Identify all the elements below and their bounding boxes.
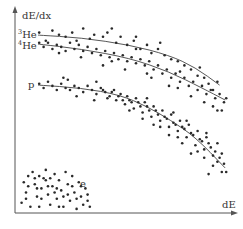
y-axis-arrow-icon (13, 6, 18, 13)
data-point-4he (212, 105, 215, 108)
data-point-p (69, 89, 72, 92)
data-point-p (150, 115, 153, 118)
data-point-p (38, 83, 41, 86)
data-point-3he (106, 31, 109, 34)
data-point-3he (163, 54, 166, 57)
data-point-e (49, 177, 52, 180)
data-point-p (168, 126, 171, 129)
data-point-p (148, 109, 151, 112)
data-point-3he (82, 27, 85, 30)
data-point-4he (82, 50, 85, 53)
data-point-p (207, 173, 210, 176)
data-point-4he (95, 48, 98, 51)
data-point-4he (210, 89, 213, 92)
data-point-p (207, 142, 210, 145)
data-point-4he (122, 54, 125, 57)
data-point-3he (119, 35, 122, 38)
data-point-3he (207, 83, 210, 86)
data-point-e (71, 185, 74, 188)
data-point-4he (78, 44, 81, 47)
data-point-p (223, 163, 226, 166)
data-point-p (199, 138, 202, 141)
data-point-p (214, 150, 217, 153)
data-point-p (205, 132, 208, 135)
data-point-3he (199, 66, 202, 69)
data-point-e (64, 171, 67, 174)
data-point-p (190, 132, 193, 135)
data-point-p (146, 97, 149, 100)
trend-curve-3he (38, 35, 220, 85)
y-axis-label: dE/dx (22, 10, 51, 21)
data-point-p (212, 154, 215, 157)
data-point-p (172, 111, 175, 114)
data-point-4he (144, 64, 147, 67)
data-point-3he (38, 31, 41, 34)
data-point-e (89, 206, 92, 209)
data-point-4he (111, 60, 114, 63)
element-he: He (22, 40, 37, 51)
data-point-4he (62, 76, 65, 79)
data-point-p (141, 111, 144, 114)
data-point-e (45, 169, 48, 172)
data-point-p (216, 142, 219, 145)
data-point-4he (42, 46, 45, 49)
data-point-p (179, 120, 182, 123)
data-point-3he (183, 64, 186, 67)
data-point-e (82, 204, 85, 207)
data-point-4he (166, 68, 169, 71)
data-point-3he (216, 81, 219, 84)
data-point-p (128, 99, 131, 102)
data-point-p (42, 87, 45, 90)
data-point-e (51, 185, 54, 188)
data-point-p (203, 148, 206, 151)
data-point-3he (170, 58, 173, 61)
data-point-4he (157, 64, 160, 67)
data-point-4he (223, 101, 226, 104)
data-point-3he (157, 48, 160, 51)
data-point-4he (218, 93, 221, 96)
data-point-3he (126, 44, 129, 47)
data-point-4he (205, 93, 208, 96)
data-point-3he (203, 76, 206, 79)
data-point-3he (93, 33, 96, 36)
data-point-e (34, 177, 37, 180)
data-point-p (221, 152, 224, 155)
data-point-e (38, 175, 41, 178)
data-point-e (31, 171, 34, 174)
data-point-4he (188, 85, 191, 88)
data-point-p (144, 101, 147, 104)
data-point-p (51, 85, 54, 88)
chart: dE/dx dE 3He 4He p e (0, 0, 243, 229)
data-point-p (168, 134, 171, 137)
data-point-e (49, 204, 52, 207)
data-point-p (212, 165, 215, 168)
data-point-4he (58, 52, 61, 55)
data-point-4he (124, 68, 127, 71)
data-point-p (130, 101, 133, 104)
data-point-4he (91, 52, 94, 55)
data-point-e (25, 191, 28, 194)
data-point-p (111, 91, 114, 94)
data-point-e (34, 183, 37, 186)
data-point-e (86, 193, 89, 196)
data-point-4he (73, 48, 76, 51)
data-point-p (122, 99, 125, 102)
data-point-4he (152, 68, 155, 71)
data-point-e (53, 191, 56, 194)
data-point-e (29, 206, 32, 209)
x-axis-arrow-icon (231, 211, 238, 216)
data-point-p (124, 103, 127, 106)
data-point-p (141, 117, 144, 120)
data-point-p (201, 140, 204, 143)
data-point-p (47, 81, 50, 84)
data-point-p (95, 93, 98, 96)
data-point-p (172, 122, 175, 125)
data-point-p (155, 109, 158, 112)
data-point-p (64, 87, 67, 90)
data-point-4he (174, 72, 177, 75)
data-point-e (27, 185, 30, 188)
data-point-4he (146, 72, 149, 75)
data-point-p (73, 85, 76, 88)
data-point-3he (51, 29, 54, 32)
data-point-p (75, 95, 78, 98)
